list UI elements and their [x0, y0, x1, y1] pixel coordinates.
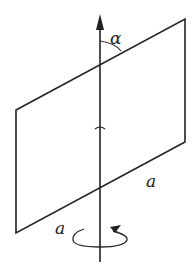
axis-arrowhead-icon: [96, 14, 104, 30]
angle-alpha-label: α: [110, 28, 122, 48]
rotation-arrowhead-icon: [110, 225, 121, 233]
side-length-label: a: [146, 171, 156, 191]
axis-side-length-label: a: [55, 218, 65, 238]
diagram-canvas: α a a: [0, 0, 196, 274]
